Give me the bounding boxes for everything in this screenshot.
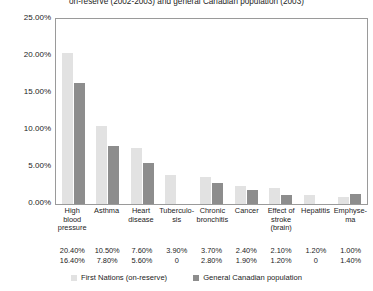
y-axis-tick: 20.00%: [0, 51, 51, 59]
bar-group: [160, 19, 195, 204]
bar-group: [125, 19, 160, 204]
bar-group: [56, 19, 91, 204]
data-table: 20.40%10.50%7.60%3.90%3.70%2.40%2.10%1.2…: [55, 246, 368, 266]
bar[interactable]: [108, 146, 119, 204]
bar[interactable]: [131, 148, 142, 204]
data-cell: 3.70%: [194, 246, 229, 256]
legend-item-general-population[interactable]: General Canadian population: [193, 274, 302, 282]
legend-label-general-population: General Canadian population: [203, 274, 302, 282]
bar-group: [194, 19, 229, 204]
bar[interactable]: [247, 190, 258, 204]
x-axis-label: Highbloodpressure: [55, 207, 89, 243]
chart-legend: First Nations (on-reserve) General Canad…: [0, 272, 373, 284]
legend-swatch-general-population: [193, 275, 199, 281]
bar-group: [298, 19, 333, 204]
x-axis-label: Emphyse-ma: [333, 207, 368, 243]
bar-group: [333, 19, 368, 204]
y-axis-tick: 5.00%: [0, 162, 51, 170]
data-cell: 1.40%: [333, 256, 368, 266]
chart-title: on-reserve (2002-2003) and general Canad…: [0, 0, 373, 6]
data-cell: 16.40%: [55, 256, 90, 266]
legend-item-first-nations[interactable]: First Nations (on-reserve): [71, 274, 167, 282]
bar[interactable]: [212, 183, 223, 204]
data-cell: 2.10%: [264, 246, 299, 256]
y-axis-labels: 25.00%20.00%15.00%10.00%5.00%0.00%: [0, 18, 51, 205]
bar-groups: [56, 19, 367, 204]
data-row-general-population: 16.40%7.80%5.60%02.80%1.90%1.20%01.40%: [55, 256, 368, 266]
data-cell: 1.90%: [229, 256, 264, 266]
data-cell: 7.80%: [90, 256, 125, 266]
bar[interactable]: [96, 126, 107, 204]
data-cell: 7.60%: [125, 246, 160, 256]
data-row-first-nations: 20.40%10.50%7.60%3.90%3.70%2.40%2.10%1.2…: [55, 246, 368, 256]
x-axis-labels: HighbloodpressureAsthmaHeartdiseaseTuber…: [55, 207, 368, 243]
data-cell: 5.60%: [125, 256, 160, 266]
x-axis-label: Tuberculo-sis: [158, 207, 195, 243]
bar[interactable]: [235, 186, 246, 204]
data-cell: 0: [159, 256, 194, 266]
y-axis-tick: 10.00%: [0, 125, 51, 133]
data-cell: 1.20%: [298, 246, 333, 256]
bar-group: [263, 19, 298, 204]
data-cell: 10.50%: [90, 246, 125, 256]
y-axis-tick: 15.00%: [0, 88, 51, 96]
bar-group: [229, 19, 264, 204]
data-cell: 2.40%: [229, 246, 264, 256]
y-axis-tick: 25.00%: [0, 14, 51, 22]
bar[interactable]: [304, 195, 315, 204]
bar-group: [91, 19, 126, 204]
y-axis-tick: 0.00%: [0, 199, 51, 207]
legend-label-first-nations: First Nations (on-reserve): [81, 274, 167, 282]
bar[interactable]: [62, 53, 73, 204]
bar[interactable]: [165, 175, 176, 204]
bar[interactable]: [338, 197, 349, 204]
bar[interactable]: [143, 163, 154, 204]
data-cell: 0: [298, 256, 333, 266]
x-axis-label: Asthma: [89, 207, 123, 243]
bar[interactable]: [200, 177, 211, 204]
x-axis-label: Chronicbronchitis: [195, 207, 229, 243]
x-axis-label: Hepatitis: [298, 207, 332, 243]
plot-area: [55, 18, 368, 205]
x-axis-label: Effect ofstroke(brain): [264, 207, 298, 243]
bar[interactable]: [269, 188, 280, 204]
data-cell: 2.80%: [194, 256, 229, 266]
data-cell: 20.40%: [55, 246, 90, 256]
data-cell: 1.20%: [264, 256, 299, 266]
data-cell: 3.90%: [159, 246, 194, 256]
chart-container: on-reserve (2002-2003) and general Canad…: [0, 0, 373, 291]
data-cell: 1.00%: [333, 246, 368, 256]
x-axis-label: Cancer: [230, 207, 264, 243]
bar[interactable]: [281, 195, 292, 204]
bar[interactable]: [74, 83, 85, 204]
bar[interactable]: [350, 194, 361, 204]
legend-swatch-first-nations: [71, 275, 77, 281]
x-axis-label: Heartdisease: [124, 207, 158, 243]
